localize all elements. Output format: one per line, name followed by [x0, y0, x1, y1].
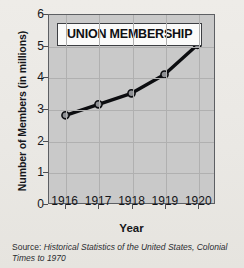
gridline-vertical [133, 15, 134, 203]
series-line [66, 45, 198, 116]
y-tick-mark [43, 109, 48, 110]
x-tick-mark [65, 204, 66, 209]
x-tick-mark [198, 204, 199, 209]
x-tick-mark [132, 204, 133, 209]
chart-title: UNION MEMBERSHIP [57, 23, 202, 46]
gridline-horizontal [49, 173, 214, 174]
plot-area: UNION MEMBERSHIP [48, 14, 215, 204]
x-tick-mark [98, 204, 99, 209]
y-tick-label: 0 [10, 197, 44, 211]
y-tick-mark [43, 141, 48, 142]
gridline-vertical [199, 15, 200, 203]
source-title: Historical Statistics of the United Stat… [12, 242, 227, 263]
y-tick-label: 3 [10, 102, 44, 116]
source-label: Source: [12, 242, 41, 252]
source-note: Source: Historical Statistics of the Uni… [12, 242, 236, 264]
gridline-horizontal [49, 78, 214, 79]
gridline-horizontal [49, 47, 214, 48]
gridline-vertical [66, 15, 67, 203]
gridline-horizontal [49, 110, 214, 111]
y-tick-mark [43, 172, 48, 173]
y-tick-mark [43, 46, 48, 47]
y-tick-label: 2 [10, 134, 44, 148]
x-axis-title: Year [48, 222, 215, 234]
y-tick-label: 1 [10, 165, 44, 179]
x-tick-mark [165, 204, 166, 209]
gridline-vertical [166, 15, 167, 203]
y-tick-label: 5 [10, 39, 44, 53]
gridline-vertical [99, 15, 100, 203]
y-tick-mark [43, 14, 48, 15]
y-tick-label: 6 [10, 7, 44, 21]
data-point-marker [161, 71, 168, 78]
data-point-marker [128, 90, 135, 97]
y-tick-mark [43, 77, 48, 78]
y-tick-label: 4 [10, 70, 44, 84]
chart-figure: Number of Members (in millions) UNION ME… [0, 0, 244, 268]
gridline-horizontal [49, 142, 214, 143]
